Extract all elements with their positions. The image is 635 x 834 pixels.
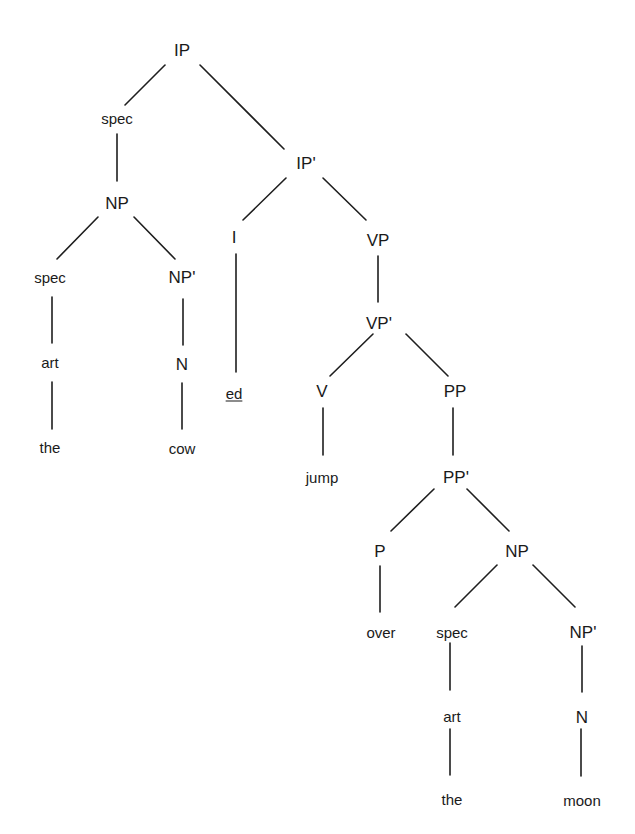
tree-node-the1: the (40, 440, 61, 455)
edge-np1-to-npbar1 (134, 217, 175, 259)
edge-ppbar-to-np2 (467, 489, 509, 531)
tree-node-over: over (366, 625, 395, 640)
edge-ipbar-to-i (243, 178, 286, 220)
edge-np2-to-npbar2 (533, 565, 575, 607)
tree-node-ppbar: PP' (443, 469, 469, 486)
tree-node-the2: the (442, 792, 463, 807)
tree-node-spec3: spec (436, 625, 468, 640)
tree-node-moon: moon (563, 793, 601, 808)
tree-node-i: I (232, 229, 237, 246)
tree-node-ed: ed (226, 386, 243, 401)
tree-node-cow: cow (169, 441, 196, 456)
tree-node-pp: PP (444, 383, 467, 400)
tree-node-n2: N (576, 709, 588, 726)
tree-node-v: V (316, 383, 327, 400)
tree-node-jump: jump (306, 470, 339, 485)
syntax-tree-edges (0, 0, 635, 834)
tree-node-art2: art (443, 709, 461, 724)
edge-ipbar-to-vp (323, 178, 366, 220)
edge-vpbar-to-pp (406, 334, 448, 376)
tree-node-np1: NP (105, 195, 129, 212)
tree-node-npbar1: NP' (169, 269, 196, 286)
tree-node-npbar2: NP' (570, 624, 597, 641)
edge-ip-to-spec1 (125, 65, 165, 105)
tree-node-vp: VP (367, 232, 390, 249)
tree-node-art1: art (41, 355, 59, 370)
edge-np1-to-spec2 (57, 217, 98, 259)
edge-ip-to-ipbar (200, 65, 284, 149)
tree-node-spec2: spec (34, 270, 66, 285)
tree-node-ip: IP (174, 42, 190, 59)
tree-node-np2: NP (505, 543, 529, 560)
edge-np2-to-spec3 (455, 565, 497, 607)
tree-node-ipbar: IP' (296, 155, 315, 172)
edge-vpbar-to-v (330, 334, 373, 376)
tree-node-vpbar: VP' (366, 315, 392, 332)
tree-node-spec1: spec (101, 111, 133, 126)
edge-ppbar-to-p (391, 489, 434, 531)
tree-node-n1: N (176, 356, 188, 373)
tree-node-p: P (374, 543, 385, 560)
